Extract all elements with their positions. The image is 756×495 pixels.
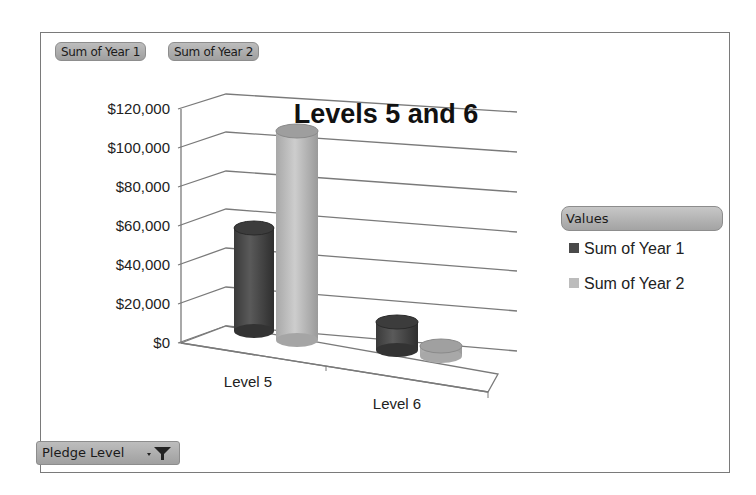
filter-funnel-icon: [145, 445, 173, 468]
legend-values-header[interactable]: Values: [561, 206, 723, 231]
svg-text:$80,000: $80,000: [116, 178, 170, 195]
legend-item-year-2: Sum of Year 2: [569, 275, 685, 293]
svg-text:$0: $0: [153, 334, 170, 351]
y-axis-labels: $120,000 $100,000 $80,000 $60,000 $40,00…: [107, 100, 170, 351]
gridlines: [178, 94, 517, 351]
svg-text:$20,000: $20,000: [116, 295, 170, 312]
legend-label: Sum of Year 2: [584, 275, 685, 292]
bar-level5-year2[interactable]: [276, 124, 318, 347]
legend-swatch-dark: [569, 243, 579, 253]
pledge-level-filter-button[interactable]: Pledge Level: [36, 441, 180, 465]
legend-item-year-1: Sum of Year 1: [569, 240, 685, 258]
svg-text:$100,000: $100,000: [107, 139, 170, 156]
svg-text:$120,000: $120,000: [107, 100, 170, 117]
svg-text:$40,000: $40,000: [116, 256, 170, 273]
bar-level6-year1[interactable]: [376, 315, 418, 357]
chart-title: Levels 5 and 6: [294, 99, 479, 129]
svg-text:Level 5: Level 5: [224, 373, 272, 390]
bar-level6-year2[interactable]: [420, 339, 462, 363]
legend-swatch-light: [569, 278, 579, 288]
x-axis-labels: Level 5 Level 6: [224, 373, 421, 412]
filter-label: Pledge Level: [42, 445, 124, 460]
svg-text:$60,000: $60,000: [116, 217, 170, 234]
legend-label: Sum of Year 1: [584, 240, 685, 257]
svg-text:Level 6: Level 6: [373, 395, 421, 412]
bar-level5-year1[interactable]: [234, 221, 274, 338]
